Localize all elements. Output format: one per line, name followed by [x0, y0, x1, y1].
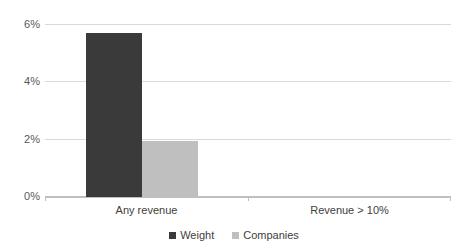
x-category-label-any-revenue: Any revenue	[45, 203, 248, 217]
y-axis: 6% 4% 2% 0%	[0, 24, 40, 197]
legend-swatch-icon-companies	[232, 232, 239, 239]
legend-label-weight: Weight	[180, 229, 214, 241]
bar-companies-any-revenue	[142, 141, 198, 197]
legend-label-companies: Companies	[243, 229, 299, 241]
legend-item-weight[interactable]: Weight	[169, 229, 214, 241]
legend-item-companies[interactable]: Companies	[232, 229, 299, 241]
bar-chart: 6% 4% 2% 0% Any revenue Revenue > 10% We…	[0, 0, 468, 251]
y-tick-label-6: 6%	[4, 19, 40, 30]
y-tick-label-4: 4%	[4, 76, 40, 87]
x-tick-middle	[248, 197, 249, 201]
chart-legend: Weight Companies	[0, 229, 468, 241]
x-tick-end	[450, 197, 451, 201]
legend-swatch-icon-weight	[169, 232, 176, 239]
y-tick-label-2: 2%	[4, 134, 40, 145]
gridline-6	[45, 24, 451, 25]
plot-area	[45, 24, 451, 197]
bar-weight-any-revenue	[86, 33, 142, 197]
x-category-label-revenue-over-10: Revenue > 10%	[248, 203, 451, 217]
y-tick-label-0: 0%	[4, 191, 40, 202]
x-tick-start	[45, 197, 46, 201]
